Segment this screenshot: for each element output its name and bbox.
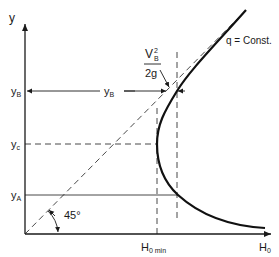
velocity-head-sup: 2: [154, 47, 158, 54]
h0min-label: H0 min: [141, 241, 166, 254]
tick-yc-label: yc: [11, 138, 21, 151]
velocity-head-arrow: [160, 70, 169, 87]
x-axis-label: H0: [259, 241, 271, 254]
velocity-head-sub: B: [154, 55, 159, 62]
y-axis-label: y: [9, 11, 15, 25]
angle-label: 45°: [64, 209, 81, 221]
curve-label: q = Const.: [226, 35, 272, 46]
velocity-head-numerator: V: [145, 47, 153, 61]
specific-energy-diagram: y yB yc yA yB V 2 B 2g q = Const. 45° H0…: [0, 0, 279, 257]
tick-yB-label: yB: [11, 85, 22, 98]
velocity-head-denominator: 2g: [145, 67, 157, 79]
tick-yA-label: yA: [11, 189, 22, 202]
diagonal-45-line: [25, 10, 246, 234]
